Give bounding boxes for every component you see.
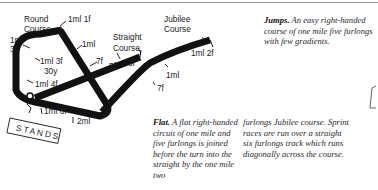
- marker-7f-jubilee: 7f: [157, 83, 165, 93]
- jubilee-course-label-line1: Jubilee: [164, 14, 191, 24]
- stands-box: STANDS: [7, 118, 62, 144]
- marker-7f-round: 7f: [96, 56, 104, 66]
- jubilee-course-label-line2: Course: [164, 24, 191, 34]
- marker-6f: 6f: [128, 58, 136, 68]
- straight-course-label-line1: Straight: [113, 32, 142, 42]
- round-course-label-line2: Course: [24, 24, 51, 34]
- cropped-edge-element: [370, 86, 376, 108]
- marker-30y: 30y: [44, 66, 58, 76]
- marker-5f: 5f: [109, 61, 117, 71]
- flat-heading: Flat.: [153, 117, 170, 127]
- flat-description-col2: furlongs Jubilee course. Sprint races ar…: [243, 117, 353, 159]
- marker-1ml-1f: 1ml 1f: [68, 14, 91, 24]
- marker-3f-outer: 3f: [10, 44, 18, 54]
- marker-1ml-jubilee: 1ml: [166, 70, 180, 80]
- marker-1ml-3f: 1ml 3f: [40, 56, 63, 66]
- jumps-heading: Jumps.: [264, 15, 290, 25]
- marker-2ml: 2ml: [77, 116, 91, 126]
- flat-body-col2: furlongs Jubilee course. Sprint races ar…: [243, 117, 349, 159]
- marker-1ml-6f: 1ml 6f: [44, 106, 67, 116]
- flat-description-col1: Flat. A flat right-handed circuit of one…: [153, 117, 243, 181]
- round-course-label-line1: Round: [24, 14, 49, 24]
- straight-course-label-line2: Course: [113, 43, 140, 53]
- marker-1ml-2f: 1ml 2f: [191, 48, 214, 58]
- jumps-description: Jumps. An easy right-handed course of on…: [264, 15, 376, 47]
- winning-post-icon: [27, 93, 33, 99]
- marker-1ml-4f: 1ml 4f: [35, 79, 58, 89]
- marker-1ml: 1ml: [82, 39, 96, 49]
